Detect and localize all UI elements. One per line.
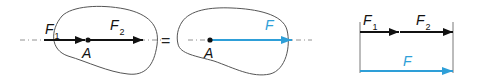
label-point-a: A	[81, 45, 91, 61]
left-body-diagram: F1 F2 A	[20, 6, 162, 74]
label-f2: F2	[416, 12, 431, 32]
equals-sign: =	[161, 32, 170, 49]
label-f1: F1	[45, 21, 60, 41]
label-f1: F1	[363, 12, 378, 32]
label-resultant-f: F	[265, 17, 275, 33]
point-a-dot	[85, 37, 90, 42]
label-point-a: A	[203, 45, 213, 61]
vector-sum-diagram: F1 F2 F	[360, 12, 453, 73]
force-addition-diagram: F1 F2 A = F A F1 F2 F	[0, 0, 477, 82]
middle-body-diagram: F A	[177, 8, 312, 75]
label-f2: F2	[110, 17, 125, 37]
point-a-dot	[207, 37, 212, 42]
label-resultant-f: F	[403, 53, 413, 69]
